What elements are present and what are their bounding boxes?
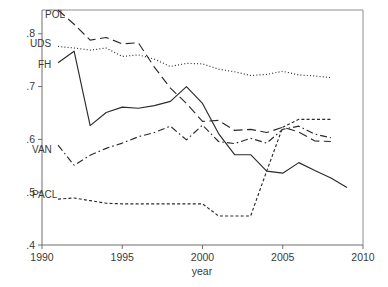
x-tick-label: 2010 [351, 251, 375, 263]
series-label-uds: UDS [30, 38, 51, 49]
plot-frame [42, 10, 363, 245]
series-label-pacl: PACL [32, 189, 58, 200]
series-label-van: VAN [32, 144, 52, 155]
y-tick-label: .4 [26, 239, 35, 251]
series-label-fh: FH [38, 59, 51, 70]
x-tick-label: 2005 [271, 251, 295, 263]
x-tick-label: 2000 [191, 251, 215, 263]
series-line-uds [58, 46, 331, 77]
series-label-pol: POL [45, 9, 65, 20]
series-line-pacl [58, 119, 331, 216]
x-axis-title: year [192, 265, 213, 277]
series-line-pol [58, 10, 331, 141]
x-tick-label: 1995 [111, 251, 135, 263]
series-label-group: POLUDSFHVANPACL [30, 9, 65, 200]
x-axis-ticks: 19901995200020052010 [30, 245, 375, 263]
series-line-van [58, 125, 331, 165]
axes [42, 10, 363, 245]
chart-container: .4.5.6.7.8 19901995200020052010 POLUDSFH… [0, 0, 388, 287]
line-chart: .4.5.6.7.8 19901995200020052010 POLUDSFH… [0, 0, 388, 287]
x-tick-label: 1990 [30, 251, 54, 263]
series-group [58, 10, 347, 216]
y-tick-label: .7 [26, 80, 35, 92]
